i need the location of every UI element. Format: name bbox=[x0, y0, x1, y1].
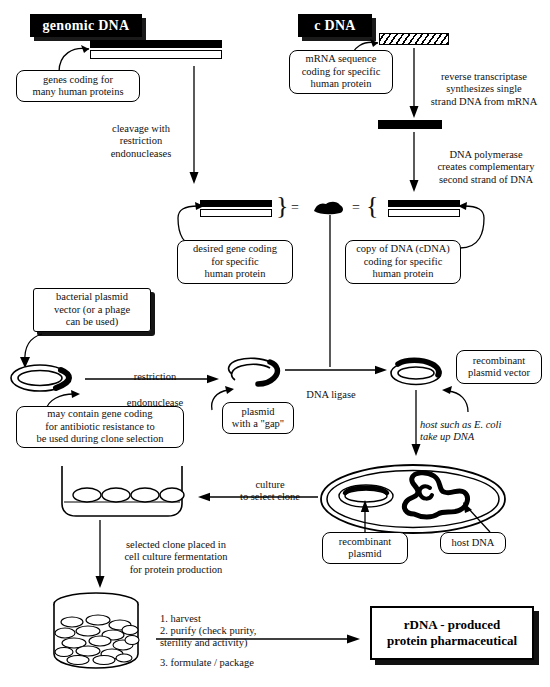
mrna-strand bbox=[379, 33, 449, 45]
final-product-box: rDNA - produced protein pharmaceutical bbox=[370, 606, 534, 660]
genes-coding-text: genes coding for many human proteins bbox=[33, 74, 124, 99]
dna-polymerase-text: DNA polymerase creates complementary sec… bbox=[437, 149, 534, 185]
downstream-step-3: 3. formulate / package bbox=[160, 644, 330, 669]
selected-clone-label: selected clone placed in cell culture fe… bbox=[106, 526, 246, 576]
gene-to-ligase-line bbox=[326, 215, 334, 367]
cleavage-text: cleavage with restriction endonucleases bbox=[111, 123, 172, 159]
gene-merge-blob bbox=[312, 200, 346, 216]
desired-gene-text: desired gene coding for specific human p… bbox=[193, 243, 277, 280]
equals-right: = bbox=[352, 201, 360, 215]
restriction-endonuclease-label-bottom: endonuclease bbox=[105, 384, 205, 409]
cdna-copy-text: copy of DNA (cDNA) coding for specific h… bbox=[356, 243, 450, 280]
reverse-transcriptase-arrow bbox=[408, 48, 420, 120]
cdna-copy-callout: copy of DNA (cDNA) coding for specific h… bbox=[345, 240, 461, 284]
fermentation-vessel bbox=[50, 592, 142, 674]
culture-select-arrow bbox=[196, 492, 320, 502]
desired-gene-bottom-strand bbox=[200, 209, 272, 217]
rdna-technology-diagram: genomic DNA genes coding for many human … bbox=[0, 0, 550, 687]
plasmid-gap-callout: plasmid with a "gap" bbox=[222, 402, 294, 434]
selected-clone-arrow bbox=[94, 520, 106, 590]
dna-polymerase-label: DNA polymerase creates complementary sec… bbox=[424, 136, 548, 186]
reverse-transcriptase-label: reverse transcriptase synthesizes single… bbox=[420, 58, 548, 108]
recombinant-plasmid-text: recombinant plasmid bbox=[339, 536, 391, 561]
recombinant-plasmid-vector-callout: recombinant plasmid vector bbox=[456, 350, 542, 384]
equals-left: = bbox=[291, 201, 299, 215]
cdna-copy-bottom-strand bbox=[388, 209, 460, 217]
host-dna-callout: host DNA bbox=[440, 532, 506, 554]
recombinant-plasmid-vector-text: recombinant plasmid vector bbox=[468, 355, 530, 380]
selected-clone-text: selected clone placed in cell culture fe… bbox=[124, 539, 227, 575]
culture-tray bbox=[58, 466, 186, 518]
plasmid-gap-text: plasmid with a "gap" bbox=[232, 406, 284, 431]
bacterial-plasmid-callout: bacterial plasmid vector (or a phage can… bbox=[33, 288, 151, 332]
cdna-header: c DNA bbox=[298, 14, 372, 37]
desired-gene-callout: desired gene coding for specific human p… bbox=[177, 240, 293, 284]
dna-polymerase-arrow bbox=[408, 132, 420, 194]
cleavage-arrow bbox=[188, 66, 200, 186]
cdna-copy-top-strand bbox=[388, 200, 460, 207]
genomic-dna-top-strand bbox=[90, 40, 222, 48]
genes-coding-callout: genes coding for many human proteins bbox=[16, 70, 140, 102]
final-product-label: rDNA - produced protein pharmaceutical bbox=[387, 617, 517, 650]
desired-gene-top-strand bbox=[200, 200, 272, 207]
brace-right: { bbox=[366, 193, 378, 219]
restriction-endonuclease-arrow bbox=[85, 374, 221, 384]
dna-ligase-arrow bbox=[285, 365, 389, 375]
bacterial-plasmid-text: bacterial plasmid vector (or a phage can… bbox=[54, 291, 130, 328]
cleavage-label: cleavage with restriction endonucleases bbox=[95, 110, 187, 160]
single-strand-dna bbox=[378, 120, 442, 129]
genomic-dna-header-label: genomic DNA bbox=[43, 18, 130, 34]
cdna-header-label: c DNA bbox=[314, 18, 356, 34]
cdna-copy-pointer-arrow bbox=[456, 200, 490, 252]
host-dna-callout-arrow bbox=[460, 500, 494, 534]
mrna-sequence-callout: mRNA sequence coding for specific human … bbox=[289, 50, 393, 94]
antibiotic-resistance-callout: may contain gene coding for antibiotic r… bbox=[16, 406, 184, 448]
antibiotic-resistance-text: may contain gene coding for antibiotic r… bbox=[36, 408, 163, 445]
host-dna-text: host DNA bbox=[452, 537, 495, 549]
mrna-sequence-text: mRNA sequence coding for specific human … bbox=[302, 53, 381, 90]
recombinant-plasmid-callout: recombinant plasmid bbox=[322, 532, 408, 564]
genomic-dna-bottom-strand bbox=[90, 50, 222, 59]
recombinant-plasmid-callout-arrow bbox=[360, 498, 370, 534]
dna-ligase-label: DNA ligase bbox=[288, 376, 374, 401]
host-uptake-label: host such as E. coli take up DNA bbox=[420, 406, 542, 444]
reverse-transcriptase-text: reverse transcriptase synthesizes single… bbox=[431, 71, 537, 107]
brace-left: } bbox=[276, 193, 288, 219]
genomic-dna-header: genomic DNA bbox=[30, 14, 142, 37]
final-product-arrow bbox=[156, 634, 362, 644]
host-uptake-text: host such as E. coli take up DNA bbox=[420, 419, 501, 443]
